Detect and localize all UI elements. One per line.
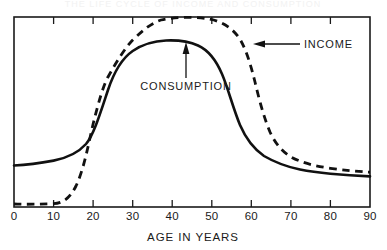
x-tick-label-70: 70 (284, 210, 297, 222)
chart-title-cropped: THE LIFE CYCLE OF INCOME AND CONSUMPTION (65, 0, 322, 9)
consumption-label: CONSUMPTION (140, 80, 231, 92)
x-tick-label-90: 90 (363, 210, 376, 222)
x-tick-label-40: 40 (166, 210, 179, 222)
x-tick-label-30: 30 (126, 210, 139, 222)
x-tick-label-60: 60 (245, 210, 258, 222)
x-tick-label-0: 0 (11, 210, 18, 222)
x-tick-label-50: 50 (205, 210, 218, 222)
x-tick-label-20: 20 (86, 210, 99, 222)
x-tick-label-80: 80 (324, 210, 337, 222)
figure-container: THE LIFE CYCLE OF INCOME AND CONSUMPTION (0, 0, 387, 250)
x-axis-title: AGE IN YEARS (147, 231, 239, 243)
life-cycle-income-consumption-chart: THE LIFE CYCLE OF INCOME AND CONSUMPTION (0, 0, 387, 250)
x-tick-label-10: 10 (47, 210, 60, 222)
income-label: INCOME (304, 38, 353, 50)
